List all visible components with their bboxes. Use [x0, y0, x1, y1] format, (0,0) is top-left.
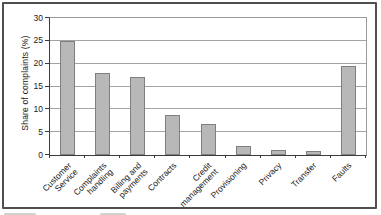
bar-faults [341, 66, 356, 155]
bar-provisioning [236, 146, 251, 155]
y-tick-label-25: 25 [21, 36, 43, 44]
bar-contracts [165, 115, 180, 155]
y-tick-label-20: 20 [21, 59, 43, 67]
x-tick-mark-0 [49, 155, 50, 158]
x-tick-mark-7 [295, 155, 296, 158]
gridline-y20 [50, 63, 366, 64]
y-tick-mark-10 [45, 108, 49, 109]
y-tick-mark-20 [45, 63, 49, 64]
y-tick-label-15: 15 [21, 82, 43, 90]
caption-text-fragment [100, 213, 126, 215]
caption-text-fragment [4, 213, 36, 215]
x-tick-mark-4 [189, 155, 190, 158]
x-tick-mark-6 [260, 155, 261, 158]
y-tick-mark-30 [45, 17, 49, 18]
x-tick-mark-5 [225, 155, 226, 158]
screenshot-root: Share of complaints (%) 051015202530 Cus… [0, 0, 381, 215]
y-tick-mark-15 [45, 86, 49, 87]
y-tick-label-30: 30 [21, 14, 43, 22]
x-tick-mark-9 [365, 155, 366, 158]
x-tick-mark-8 [330, 155, 331, 158]
bar-credit-management [201, 124, 216, 155]
bar-billing-and-payments [130, 77, 145, 155]
chart-figure: Share of complaints (%) 051015202530 Cus… [2, 2, 377, 209]
x-tick-mark-3 [154, 155, 155, 158]
bar-privacy [271, 150, 286, 155]
cropped-caption-remnant [0, 211, 381, 215]
y-tick-mark-5 [45, 131, 49, 132]
x-tick-mark-1 [84, 155, 85, 158]
plot-area [49, 17, 367, 156]
bar-transfer [306, 151, 321, 155]
bar-customer-service [60, 41, 75, 155]
y-tick-mark-25 [45, 40, 49, 41]
y-tick-label-0: 0 [21, 151, 43, 159]
x-tick-mark-2 [119, 155, 120, 158]
gridline-y25 [50, 40, 366, 41]
y-tick-label-5: 5 [21, 128, 43, 136]
bar-complaints-handling [95, 73, 110, 155]
y-tick-label-10: 10 [21, 105, 43, 113]
